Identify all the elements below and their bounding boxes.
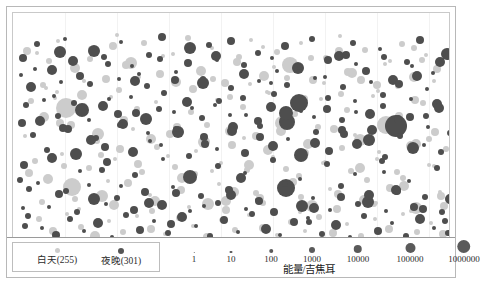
scatter-point: [236, 173, 246, 183]
scatter-point: [271, 91, 277, 97]
scatter-point: [56, 39, 60, 43]
scatter-point: [40, 226, 44, 230]
scatter-point: [390, 221, 394, 225]
scatter-point: [172, 164, 178, 170]
scatter-point: [233, 58, 241, 66]
scatter-point: [409, 97, 413, 101]
scatter-point: [47, 205, 51, 209]
color-legend-label: 夜晚(301): [101, 256, 142, 266]
scatter-point: [44, 147, 50, 153]
scatter-point: [270, 56, 274, 60]
scatter-point: [338, 183, 344, 189]
scatter-point: [429, 221, 433, 225]
scatter-point: [171, 52, 175, 56]
scatter-point: [215, 147, 219, 151]
scatter-point: [107, 97, 111, 101]
scatter-point: [130, 206, 138, 214]
scatter-point: [297, 64, 303, 70]
scatter-point: [21, 206, 25, 210]
scatter-point: [322, 81, 326, 85]
scatter-point: [55, 190, 63, 198]
scatter-points-layer: [13, 13, 449, 237]
scatter-point: [303, 229, 307, 233]
scatter-point: [324, 161, 330, 167]
scatter-point: [376, 89, 380, 93]
scatter-point: [312, 115, 316, 119]
scatter-point: [397, 133, 403, 139]
scatter-point: [447, 130, 450, 136]
scatter-point: [60, 152, 64, 156]
size-legend-entry-3[interactable]: 1000: [303, 247, 321, 264]
scatter-point: [159, 143, 163, 147]
scatter-point: [26, 82, 36, 92]
scatter-point: [244, 113, 248, 117]
scatter-point: [439, 209, 445, 215]
scatter-point: [19, 73, 23, 77]
scatter-point: [35, 51, 39, 55]
scatter-point: [364, 190, 374, 200]
scatter-point: [261, 45, 265, 49]
scatter-point: [324, 56, 332, 64]
size-legend-entry-0[interactable]: 1: [192, 252, 197, 265]
scatter-point: [72, 196, 78, 202]
size-legend-entry-5[interactable]: 100000: [397, 243, 424, 264]
color-legend-label: 白天(255): [37, 255, 78, 265]
size-legend-entry-1[interactable]: 10: [227, 251, 236, 265]
scatter-point: [344, 107, 350, 113]
scatter-point: [352, 139, 362, 149]
scatter-point: [325, 95, 331, 101]
size-legend-bubble-icon: [193, 252, 195, 254]
size-legend-entry-4[interactable]: 10000: [347, 245, 370, 264]
color-legend-entry-1[interactable]: 夜晚(301): [87, 248, 155, 267]
scatter-point: [149, 208, 155, 214]
scatter-point: [194, 224, 198, 228]
scatter-point: [32, 158, 38, 164]
scatter-point: [173, 126, 179, 132]
scatter-point: [59, 80, 63, 84]
scatter-point: [194, 149, 198, 153]
scatter-point: [369, 80, 373, 84]
color-legend-entry-0[interactable]: 白天(255): [23, 248, 91, 266]
scatter-point: [329, 229, 337, 237]
scatter-point: [146, 52, 152, 58]
scatter-point: [415, 214, 425, 224]
scatter-point: [128, 147, 138, 157]
size-legend-label: 1: [192, 255, 197, 264]
scatter-point: [393, 187, 401, 195]
scatter-point: [354, 110, 358, 114]
scatter-point: [236, 230, 240, 234]
scatter-point: [269, 81, 273, 85]
scatter-point: [117, 122, 123, 128]
scatter-point: [382, 170, 386, 174]
scatter-point: [339, 117, 345, 123]
scatter-point: [78, 169, 82, 173]
scatter-point: [28, 98, 34, 104]
scatter-point: [136, 226, 144, 234]
scatter-point: [445, 230, 450, 236]
scatter-point: [225, 186, 233, 194]
size-legend-entry-2[interactable]: 100: [264, 249, 278, 264]
scatter-point: [309, 203, 319, 213]
scatter-point: [283, 166, 289, 172]
color-legend[interactable]: 白天(255)夜晚(301): [12, 242, 160, 272]
scatter-point: [399, 41, 405, 47]
scatter-point: [416, 36, 424, 44]
scatter-point: [338, 34, 342, 38]
size-legend-entry-6[interactable]: 1000000: [448, 240, 480, 264]
scatter-point: [132, 172, 138, 178]
scatter-point: [119, 40, 123, 44]
scatter-point: [36, 216, 42, 222]
scatter-point: [102, 75, 110, 83]
scatter-point: [382, 154, 388, 160]
scatter-point: [124, 179, 132, 187]
scatter-point: [355, 201, 361, 207]
scatter-point: [154, 100, 158, 104]
scatter-point: [17, 177, 23, 183]
scatter-point: [373, 217, 377, 221]
scatter-point: [345, 222, 349, 226]
scatter-point: [384, 209, 388, 213]
scatter-point: [52, 94, 56, 98]
scatter-point: [106, 179, 110, 183]
scatter-point: [144, 83, 150, 89]
size-legend-label: 1000000: [448, 255, 480, 264]
